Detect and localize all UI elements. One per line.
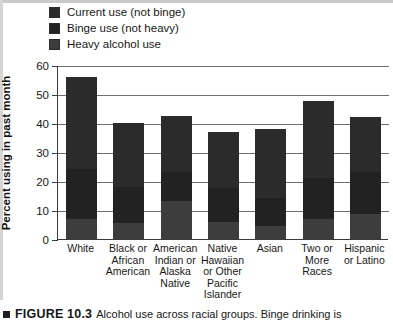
x-axis-label-american-indian-or-alaska-native: American Indian or Alaska Native <box>152 243 199 301</box>
x-axis-label-hispanic-or-latino: Hispanic or Latino <box>341 243 388 301</box>
bar-segment-current-use-not-binge <box>161 116 192 173</box>
x-axis-label-black-or-african-american: Black or African American <box>104 243 151 301</box>
bar-segment-heavy-alcohol-use <box>66 219 97 239</box>
legend-label-current-use: Current use (not binge) <box>67 6 185 18</box>
bar-slot <box>105 65 152 239</box>
figure-caption: FIGURE 10.3 Alcohol use across racial gr… <box>3 308 393 323</box>
bar-slot <box>200 65 247 239</box>
bar-american-indian-or-alaska-native[interactable] <box>161 116 192 239</box>
bar-slot <box>294 65 341 239</box>
plot-area: 0102030405060 <box>57 66 388 240</box>
bar-segment-heavy-alcohol-use <box>113 223 144 239</box>
legend-swatch-heavy-use <box>49 39 60 50</box>
bar-segment-heavy-alcohol-use <box>208 222 239 239</box>
y-tick-label-40: 40 <box>36 118 49 130</box>
x-axis-label-white: White <box>57 243 104 301</box>
y-tick-label-30: 30 <box>36 147 49 159</box>
bar-segment-heavy-alcohol-use <box>255 226 286 239</box>
bar-white[interactable] <box>66 77 97 239</box>
x-axis-labels: WhiteBlack or African AmericanAmerican I… <box>57 243 388 301</box>
figure-caption-label: FIGURE 10.3 <box>15 308 92 321</box>
bar-segment-heavy-alcohol-use <box>161 201 192 239</box>
legend-swatch-binge-use <box>49 23 60 34</box>
legend-item-binge-use: Binge use (not heavy) <box>49 21 185 35</box>
figure-caption-text: Alcohol use across racial groups. Binge … <box>96 308 341 321</box>
bar-segment-binge-use-not-heavy <box>208 188 239 221</box>
bar-segment-current-use-not-binge <box>303 101 334 178</box>
bar-black-or-african-american[interactable] <box>113 123 144 239</box>
bar-segment-current-use-not-binge <box>66 77 97 170</box>
square-bullet-icon <box>3 311 10 318</box>
bar-segment-binge-use-not-heavy <box>66 169 97 218</box>
bar-hispanic-or-latino[interactable] <box>350 117 381 239</box>
bar-native-hawaiian-or-other-pacific-islander[interactable] <box>208 132 239 239</box>
bar-segment-current-use-not-binge <box>350 117 381 172</box>
bar-segment-current-use-not-binge <box>208 132 239 189</box>
legend-item-heavy-use: Heavy alcohol use <box>49 37 185 51</box>
bar-slot <box>342 65 389 239</box>
bar-segment-current-use-not-binge <box>255 129 286 198</box>
bar-segment-heavy-alcohol-use <box>350 214 381 239</box>
bar-segment-binge-use-not-heavy <box>303 178 334 219</box>
legend-label-heavy-use: Heavy alcohol use <box>67 38 161 50</box>
bar-segment-current-use-not-binge <box>113 123 144 187</box>
bar-segment-binge-use-not-heavy <box>255 198 286 226</box>
bar-segment-binge-use-not-heavy <box>113 187 144 223</box>
y-tick-label-50: 50 <box>36 89 49 101</box>
y-axis-title: Percent using in past month <box>0 66 14 240</box>
bar-slot <box>153 65 200 239</box>
x-axis-label-two-or-more-races: Two or More Races <box>293 243 340 301</box>
bar-group <box>58 65 389 239</box>
bar-asian[interactable] <box>255 129 286 239</box>
y-tick-label-10: 10 <box>36 205 49 217</box>
bar-two-or-more-races[interactable] <box>303 101 334 239</box>
legend-swatch-current-use <box>49 7 60 18</box>
x-axis-label-native-hawaiian-or-other-pacific-islander: Native Hawaiian or Other Pacific Islande… <box>199 243 246 301</box>
bar-segment-heavy-alcohol-use <box>303 219 334 239</box>
bar-segment-binge-use-not-heavy <box>350 172 381 214</box>
y-tick-mark-0 <box>52 240 58 241</box>
y-tick-label-60: 60 <box>36 60 49 72</box>
bar-slot <box>58 65 105 239</box>
y-tick-label-0: 0 <box>43 234 49 246</box>
page-top-edge <box>0 0 393 3</box>
bar-segment-binge-use-not-heavy <box>161 172 192 201</box>
bar-slot <box>247 65 294 239</box>
x-axis-label-asian: Asian <box>246 243 293 301</box>
y-tick-label-20: 20 <box>36 176 49 188</box>
chart-legend: Current use (not binge) Binge use (not h… <box>49 5 185 51</box>
legend-item-current-use: Current use (not binge) <box>49 5 185 19</box>
legend-label-binge-use: Binge use (not heavy) <box>67 22 179 34</box>
